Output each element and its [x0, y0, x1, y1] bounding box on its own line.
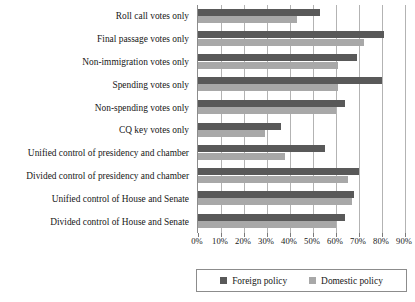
legend-item: Foreign policy	[220, 276, 287, 286]
bar-group	[198, 165, 405, 188]
category-label: Unified control of House and Senate	[0, 194, 189, 204]
bar-foreign-policy	[198, 214, 345, 221]
category-label: CQ key votes only	[0, 125, 189, 135]
bar-foreign-policy	[198, 31, 384, 38]
bar-group	[198, 51, 405, 74]
bar-group	[198, 187, 405, 210]
legend-swatch-icon	[220, 277, 227, 284]
bar-domestic-policy	[198, 130, 265, 137]
bar-chart: Roll call votes onlyFinal passage votes …	[0, 0, 415, 302]
category-label: Non-immigration votes only	[0, 57, 189, 67]
x-axis-tick-labels: 0%10%20%30%40%50%60%70%80%90%	[197, 236, 412, 248]
category-axis-labels: Roll call votes onlyFinal passage votes …	[0, 5, 193, 233]
bar-group	[198, 142, 405, 165]
category-label: Unified control of presidency and chambe…	[0, 148, 189, 158]
category-label: Roll call votes only	[0, 11, 189, 21]
bar-group	[198, 119, 405, 142]
category-label: Spending votes only	[0, 80, 189, 90]
bar-domestic-policy	[198, 16, 297, 23]
bar-group	[198, 96, 405, 119]
bar-domestic-policy	[198, 198, 352, 205]
bar-foreign-policy	[198, 123, 281, 130]
category-label: Non-spending votes only	[0, 103, 189, 113]
category-label: Divided control of House and Senate	[0, 217, 189, 227]
bar-domestic-policy	[198, 39, 364, 46]
bar-foreign-policy	[198, 191, 354, 198]
category-label: Divided control of presidency and chambe…	[0, 171, 189, 181]
bar-domestic-policy	[198, 176, 348, 183]
legend-swatch-icon	[309, 277, 316, 284]
bar-group	[198, 210, 405, 233]
category-label: Final passage votes only	[0, 34, 189, 44]
bar-foreign-policy	[198, 100, 345, 107]
bar-foreign-policy	[198, 9, 320, 16]
plot-area	[197, 5, 405, 233]
legend-label: Foreign policy	[232, 276, 287, 286]
bar-domestic-policy	[198, 84, 338, 91]
legend-item: Domestic policy	[309, 276, 383, 286]
chart-legend: Foreign policyDomestic policy	[196, 269, 407, 292]
bar-group	[198, 73, 405, 96]
bar-group	[198, 28, 405, 51]
bar-group	[198, 5, 405, 28]
bar-foreign-policy	[198, 145, 325, 152]
legend-label: Domestic policy	[321, 276, 383, 286]
bar-domestic-policy	[198, 221, 336, 228]
bar-foreign-policy	[198, 77, 382, 84]
bar-domestic-policy	[198, 62, 338, 69]
bar-foreign-policy	[198, 54, 357, 61]
gridline	[405, 5, 406, 233]
bar-domestic-policy	[198, 107, 336, 114]
x-tick-label: 90%	[391, 236, 415, 246]
bar-foreign-policy	[198, 168, 359, 175]
bar-domestic-policy	[198, 153, 285, 160]
